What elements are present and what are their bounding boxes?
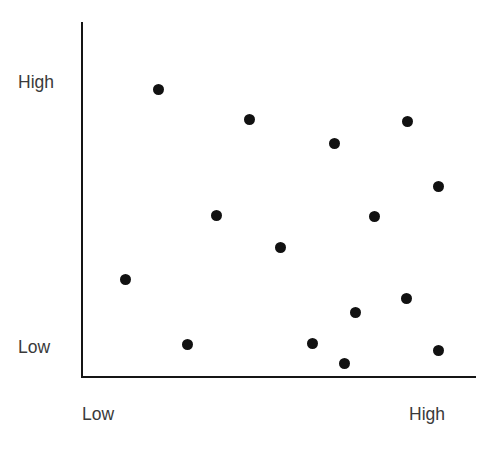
data-point bbox=[433, 181, 444, 192]
x-axis-high-label: High bbox=[409, 406, 445, 424]
y-axis-line bbox=[81, 22, 83, 378]
data-point bbox=[120, 274, 131, 285]
data-point bbox=[211, 210, 222, 221]
data-point bbox=[401, 293, 412, 304]
y-axis-high-label: High bbox=[18, 74, 54, 92]
x-axis-low-label: Low bbox=[82, 406, 114, 424]
data-point bbox=[329, 138, 340, 149]
scatter-plot-figure: High Low Low High bbox=[0, 0, 492, 450]
x-axis-line bbox=[81, 376, 476, 378]
data-point bbox=[153, 84, 164, 95]
y-axis-low-label: Low bbox=[18, 339, 50, 357]
data-point bbox=[339, 358, 350, 369]
data-point bbox=[307, 338, 318, 349]
plot-area bbox=[0, 0, 492, 450]
data-point bbox=[402, 116, 413, 127]
data-point bbox=[369, 211, 380, 222]
data-point bbox=[244, 114, 255, 125]
data-point bbox=[182, 339, 193, 350]
data-point bbox=[433, 345, 444, 356]
data-point bbox=[350, 307, 361, 318]
data-point bbox=[275, 242, 286, 253]
